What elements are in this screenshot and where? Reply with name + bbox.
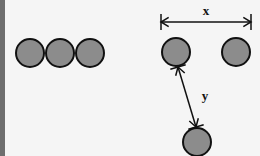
circle — [46, 39, 74, 67]
circle — [162, 38, 190, 66]
spacing-diagram: x y — [0, 0, 260, 156]
circle — [222, 38, 250, 66]
x-label: x — [203, 3, 210, 18]
circle — [76, 39, 104, 67]
left-circle-group — [16, 39, 104, 67]
circle — [16, 39, 44, 67]
y-label: y — [202, 88, 209, 103]
y-dimension-arrow — [170, 65, 203, 130]
circle — [183, 128, 211, 156]
